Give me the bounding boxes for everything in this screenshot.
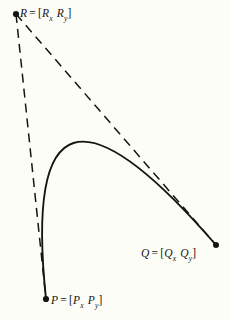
label-q-symbol: Q — [141, 247, 150, 259]
figure-canvas: R=[RxRy] Q=[QxQy] P=[PxPy] — [0, 0, 229, 320]
diagram-svg — [0, 0, 229, 320]
label-q-y-sub: y — [189, 254, 193, 263]
label-r-y-sub: y — [64, 14, 68, 23]
label-r-equals: = — [27, 7, 38, 19]
label-p-x-sub: x — [80, 301, 84, 310]
dashed-line-r-to-p — [16, 14, 46, 299]
label-p-close-bracket: ] — [98, 294, 102, 306]
bezier-curve-path — [42, 142, 216, 299]
label-q-y-base: Q — [180, 247, 189, 259]
label-r-x-sub: x — [49, 14, 53, 23]
label-point-p: P=[PxPy] — [51, 295, 103, 307]
label-q-equals: = — [150, 247, 161, 259]
label-r-close-bracket: ] — [67, 7, 71, 19]
point-marker-p — [43, 296, 49, 302]
point-marker-q — [213, 242, 219, 248]
point-marker-r — [13, 11, 19, 17]
label-point-r: R=[RxRy] — [20, 8, 72, 20]
label-point-q: Q=[QxQy] — [141, 248, 196, 260]
label-q-close-bracket: ] — [192, 247, 196, 259]
dashed-line-r-to-q — [16, 14, 216, 245]
label-q-x-sub: x — [173, 254, 177, 263]
label-p-y-sub: y — [95, 301, 99, 310]
label-p-y-base: P — [88, 294, 95, 306]
label-r-y-base: R — [57, 7, 64, 19]
label-q-x-base: Q — [164, 247, 173, 259]
label-p-equals: = — [58, 294, 69, 306]
